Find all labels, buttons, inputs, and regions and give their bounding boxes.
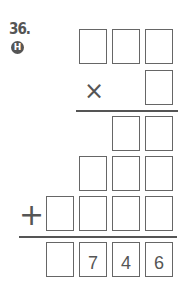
digit-box[interactable] bbox=[145, 156, 173, 191]
digit-box[interactable]: 4 bbox=[112, 242, 140, 277]
digit-box[interactable] bbox=[145, 196, 173, 231]
digit-box[interactable] bbox=[145, 116, 173, 151]
plus-sign: + bbox=[19, 200, 44, 230]
digit-box[interactable] bbox=[112, 196, 140, 231]
digit-box[interactable] bbox=[112, 29, 140, 64]
digit-box[interactable] bbox=[112, 156, 140, 191]
difficulty-badge: H bbox=[11, 41, 24, 54]
sum-rule bbox=[19, 236, 177, 238]
digit-box[interactable]: 7 bbox=[79, 242, 107, 277]
digit-box[interactable] bbox=[79, 196, 107, 231]
digit-box[interactable] bbox=[79, 156, 107, 191]
product-rule bbox=[76, 110, 178, 112]
digit-box[interactable] bbox=[145, 70, 173, 105]
digit-box[interactable] bbox=[112, 116, 140, 151]
digit-box[interactable] bbox=[79, 29, 107, 64]
problem-number: 36. bbox=[9, 20, 30, 38]
multiply-sign: × bbox=[84, 79, 104, 103]
digit-box[interactable] bbox=[46, 242, 74, 277]
digit-box[interactable] bbox=[46, 196, 74, 231]
digit-box[interactable]: 6 bbox=[145, 242, 173, 277]
digit-box[interactable] bbox=[145, 29, 173, 64]
